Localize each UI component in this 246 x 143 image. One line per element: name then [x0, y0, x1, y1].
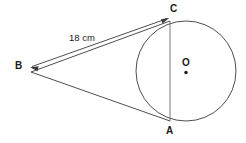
segment-b-to-a — [31, 72, 170, 121]
segment-b-to-c — [31, 21, 170, 72]
dimension-line-bc — [32, 19, 168, 67]
center-point-dot — [184, 71, 187, 74]
vertex-label-c: C — [170, 4, 177, 14]
geometry-figure: C B A O 18 cm — [0, 0, 246, 143]
vertex-label-b: B — [15, 61, 22, 71]
dimension-label-bc: 18 cm — [69, 33, 95, 43]
center-label-o: O — [182, 58, 190, 68]
geometry-canvas — [0, 0, 246, 143]
vertex-label-a: A — [166, 126, 173, 136]
